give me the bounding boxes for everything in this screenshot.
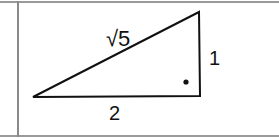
vertical-leg-label: 1 (209, 47, 220, 69)
table-cell-frame: √5 1 2 (0, 0, 279, 139)
horizontal-leg-label: 2 (109, 102, 120, 124)
hypotenuse-label: √5 (106, 26, 130, 51)
right-angle-dot-marker (183, 79, 188, 84)
triangle-shape (33, 12, 200, 97)
right-triangle-diagram: √5 1 2 (0, 0, 279, 139)
